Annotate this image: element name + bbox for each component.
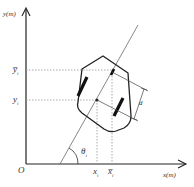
y-label: yi <box>13 95 18 106</box>
origin-label: O <box>18 166 25 175</box>
x-subscript: i <box>97 173 98 178</box>
axle-extension-top <box>112 72 148 91</box>
y-axis-label: y(m) <box>3 11 16 18</box>
diagram-canvas: y(m) x(m) O y̅i yi xi x̅i θi d <box>0 0 194 187</box>
theta-subscript: i <box>85 153 86 158</box>
y-bar-subscript: i <box>17 71 18 76</box>
x-bar-subscript: i <box>112 173 113 178</box>
y-subscript: i <box>17 101 18 106</box>
x-bar-label: x̅i <box>108 167 113 178</box>
heading-line <box>60 25 138 164</box>
x-label: xi <box>93 167 98 178</box>
y-bar-label: y̅i <box>13 65 18 76</box>
x-axis-label: x(m) <box>163 172 176 179</box>
robot-body <box>78 56 132 132</box>
axle-extension-bottom <box>97 100 138 121</box>
guide-lines <box>26 70 112 164</box>
theta-label: θi <box>81 147 87 158</box>
diagram-svg <box>0 0 194 187</box>
right-wheel <box>114 98 123 116</box>
x-axis <box>26 160 186 168</box>
y-axis <box>22 8 30 164</box>
d-label: d <box>139 100 143 107</box>
theta-arc <box>69 148 78 164</box>
